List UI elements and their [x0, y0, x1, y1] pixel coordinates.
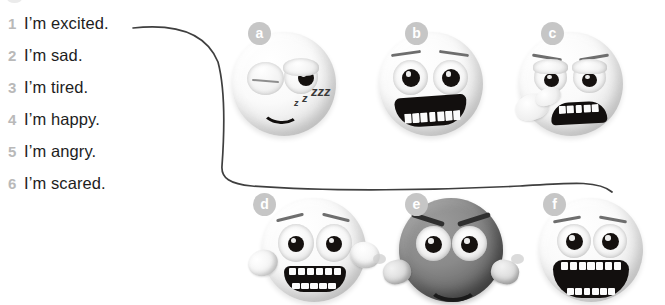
mouth-frown [550, 101, 607, 126]
sleepy-face-icon: z z zzz [232, 32, 336, 136]
eyelid-left [533, 59, 568, 74]
eyebrow-right [439, 50, 469, 57]
teeth-row-bottom [292, 283, 336, 289]
eyebrow-left [391, 50, 421, 57]
eyebrow-left [553, 216, 581, 224]
list-item[interactable]: 4 I’m happy. [8, 110, 158, 142]
badge-e: e [405, 193, 428, 216]
list-item[interactable]: 1 I’m excited. [8, 14, 158, 46]
badge-f: f [543, 193, 566, 216]
list-item-number: 4 [8, 111, 24, 128]
list-item[interactable]: 6 I’m scared. [8, 174, 158, 206]
pupil-right [442, 69, 460, 87]
eye-right [433, 60, 468, 95]
list-item-number: 5 [8, 143, 24, 160]
face-option-d[interactable]: d [248, 180, 373, 305]
zzz-text: z [294, 98, 299, 108]
fearful-face-icon [262, 198, 366, 302]
face-option-a[interactable]: a z z zzz [218, 14, 343, 139]
pupil-right [602, 233, 619, 250]
eye-right [316, 224, 352, 262]
list-item-text: I’m happy. [24, 110, 100, 129]
mouth-smile [394, 94, 468, 129]
steam-puff-icon [373, 254, 386, 264]
badge-b: b [405, 22, 428, 45]
list-item[interactable]: 5 I’m angry. [8, 142, 158, 174]
face-option-f[interactable]: f [525, 180, 650, 305]
list-item-number: 2 [8, 47, 24, 64]
eye-left [393, 60, 428, 95]
eye-left [416, 226, 451, 261]
sentence-list: 1 I’m excited. 2 I’m sad. 3 I’m tired. 4… [8, 14, 158, 206]
teeth-row-top [561, 262, 621, 270]
face-option-e[interactable]: e [385, 180, 510, 305]
teeth-row [559, 104, 599, 114]
cropped-header-artifact [7, 0, 22, 3]
hand-left-icon [244, 246, 281, 281]
pupil-left [288, 236, 304, 252]
pupil-right [461, 236, 478, 253]
pupil-right [326, 236, 342, 252]
list-item[interactable]: 2 I’m sad. [8, 46, 158, 78]
fist-left-icon [381, 257, 414, 287]
crying-face-icon [519, 32, 623, 136]
eyelid-right [283, 58, 319, 76]
pupil-right [582, 73, 597, 87]
list-item[interactable]: 3 I’m tired. [8, 78, 158, 110]
eyebrow-right [457, 212, 491, 227]
eye-left [278, 224, 314, 262]
steam-puff-icon [511, 254, 524, 264]
list-item-number: 3 [8, 79, 24, 96]
zzz-text: zzz [311, 84, 331, 99]
eye-right [452, 226, 487, 261]
eye-right [593, 224, 627, 258]
face-option-b[interactable]: b [365, 14, 490, 139]
list-item-text: I’m scared. [24, 174, 106, 193]
eye-left [557, 224, 591, 258]
badge-d: d [253, 193, 276, 216]
badge-c: c [541, 22, 564, 45]
mouth-frown [427, 268, 479, 302]
pupil-left [425, 236, 442, 253]
list-item-number: 1 [8, 15, 24, 32]
teeth-row [404, 110, 461, 124]
teeth-row-bottom [567, 288, 615, 295]
pupil-left [566, 233, 583, 250]
pupil-left [402, 69, 420, 87]
zzz-text: z [302, 92, 308, 104]
list-item-text: I’m excited. [24, 14, 109, 33]
list-item-text: I’m tired. [24, 78, 88, 97]
eyebrow-left [276, 213, 304, 223]
grinning-face-icon [379, 32, 483, 136]
eyelid-right [572, 59, 607, 74]
list-item-text: I’m angry. [24, 142, 96, 161]
face-option-c[interactable]: c [505, 14, 630, 139]
badge-a: a [248, 22, 271, 45]
eye-right [573, 62, 606, 93]
mouth-open-grimace [284, 266, 346, 292]
mouth-wide-open [553, 260, 629, 298]
teeth-row-top [289, 268, 341, 275]
eyebrow-right [322, 213, 350, 223]
eyebrow-right [599, 216, 627, 224]
list-item-text: I’m sad. [24, 46, 83, 65]
pupil-left [544, 73, 559, 87]
list-item-number: 6 [8, 175, 24, 192]
